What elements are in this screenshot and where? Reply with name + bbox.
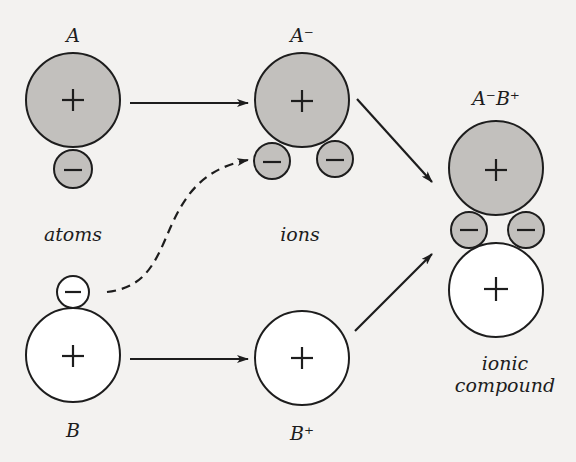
ionic-label-line1: ionic bbox=[482, 352, 529, 374]
compound-label: A⁻B⁺ bbox=[470, 87, 520, 109]
ion-a-minus: A⁻ bbox=[254, 24, 353, 179]
atom-a-label: A bbox=[64, 24, 80, 46]
ion-a-label: A⁻ bbox=[288, 24, 314, 46]
ionic-bond-diagram: A A⁻ A⁻B⁺ bbox=[0, 0, 576, 462]
arrow-cation-to-compound bbox=[355, 254, 432, 331]
ionic-compound: A⁻B⁺ bbox=[449, 87, 544, 337]
ion-b-plus: B⁺ bbox=[255, 311, 349, 444]
atoms-label: atoms bbox=[44, 223, 102, 245]
atom-a: A bbox=[26, 24, 120, 188]
ionic-label-line2: compound bbox=[455, 374, 555, 396]
atom-b-label: B bbox=[65, 419, 80, 441]
ion-b-label: B⁺ bbox=[289, 422, 314, 444]
ions-label: ions bbox=[280, 223, 320, 245]
arrow-anion-to-compound bbox=[357, 99, 432, 182]
atom-b: B bbox=[26, 276, 120, 441]
arrow-electron-transfer-dashed bbox=[107, 160, 248, 292]
